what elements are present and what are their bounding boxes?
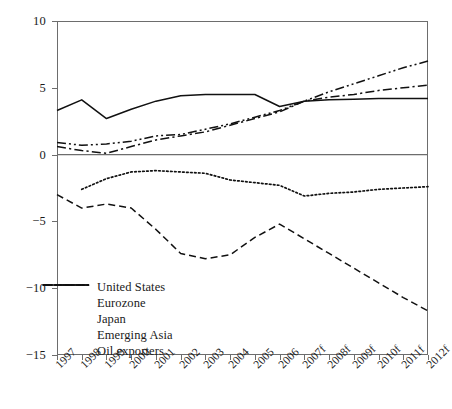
x-axis-label: 2012f	[424, 343, 452, 371]
legend-swatch	[42, 297, 90, 309]
legend-label: Japan	[97, 313, 126, 326]
y-axis-label: −5	[0, 214, 46, 229]
chart-legend: United StatesEurozoneJapanEmerging AsiaO…	[42, 279, 173, 359]
y-axis-label: 5	[0, 80, 46, 95]
series-line	[57, 94, 428, 118]
legend-item[interactable]: Oil exporters	[42, 343, 173, 359]
series-line	[57, 61, 428, 145]
legend-label: Eurozone	[97, 297, 146, 310]
y-axis-label: 0	[0, 147, 46, 162]
legend-label: Oil exporters	[97, 345, 164, 358]
legend-label: United States	[97, 281, 165, 294]
legend-item[interactable]: Japan	[42, 311, 173, 327]
legend-label: Emerging Asia	[97, 329, 173, 342]
legend-swatch	[42, 329, 90, 341]
y-axis-label: −10	[0, 281, 46, 296]
series-line	[82, 171, 428, 196]
y-axis-label: −15	[0, 348, 46, 363]
legend-swatch	[42, 313, 90, 325]
legend-item[interactable]: Eurozone	[42, 295, 173, 311]
y-axis-label: 10	[0, 14, 46, 29]
legend-item[interactable]: Emerging Asia	[42, 327, 173, 343]
series-line	[57, 85, 428, 153]
legend-swatch	[42, 345, 90, 357]
